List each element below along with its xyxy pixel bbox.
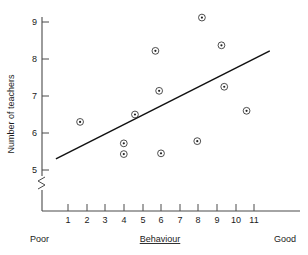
y-tick-label-6: 6 <box>32 128 37 138</box>
y-tick-label-8: 8 <box>32 54 37 64</box>
data-point-center <box>160 152 162 154</box>
data-point-center <box>158 90 160 92</box>
x-tick-label-5: 5 <box>140 215 145 225</box>
data-point <box>152 47 159 54</box>
data-point-center <box>245 110 247 112</box>
x-axis-anchor-good: Good <box>274 234 296 244</box>
x-tick-label-7: 7 <box>177 215 182 225</box>
x-tick-label-2: 2 <box>84 215 89 225</box>
data-point <box>158 150 165 157</box>
data-point <box>221 83 228 90</box>
data-point-center <box>201 16 203 18</box>
data-point <box>120 151 127 158</box>
x-tick-label-8: 8 <box>195 215 200 225</box>
data-point <box>218 42 225 49</box>
x-tick-label-10: 10 <box>231 215 241 225</box>
y-tick-label-7: 7 <box>32 91 37 101</box>
y-axis-title: Number of teachers <box>6 74 16 154</box>
x-axis-title: Behaviour <box>140 234 181 244</box>
data-point-center <box>123 153 125 155</box>
x-axis-anchor-poor: Poor <box>30 234 49 244</box>
x-tick-label-9: 9 <box>214 215 219 225</box>
y-tick-label-5: 5 <box>32 165 37 175</box>
data-point <box>120 140 127 147</box>
data-point-center <box>123 142 125 144</box>
x-tick-label-11: 11 <box>249 215 258 225</box>
y-axis-break-icon <box>38 177 45 189</box>
scatter-plot-figure: 9 8 7 6 5 1 2 3 4 5 6 7 8 9 10 11 Number… <box>0 0 308 255</box>
x-tick-label-4: 4 <box>121 215 126 225</box>
data-point-center <box>154 50 156 52</box>
data-point <box>156 87 163 94</box>
data-point-center <box>79 121 81 123</box>
data-point <box>77 119 84 126</box>
data-point-center <box>223 86 225 88</box>
data-point-center <box>134 113 136 115</box>
x-tick-label-1: 1 <box>65 215 70 225</box>
data-point <box>132 111 139 118</box>
data-point-center <box>196 140 198 142</box>
plot-canvas: 9 8 7 6 5 1 2 3 4 5 6 7 8 9 10 11 Number… <box>0 0 308 255</box>
data-point-center <box>220 44 222 46</box>
x-tick-label-3: 3 <box>102 215 107 225</box>
data-point <box>194 138 201 145</box>
data-point <box>243 107 250 114</box>
y-tick-label-9: 9 <box>32 17 37 27</box>
x-tick-label-6: 6 <box>158 215 163 225</box>
data-point <box>199 14 206 21</box>
regression-line <box>56 51 270 159</box>
